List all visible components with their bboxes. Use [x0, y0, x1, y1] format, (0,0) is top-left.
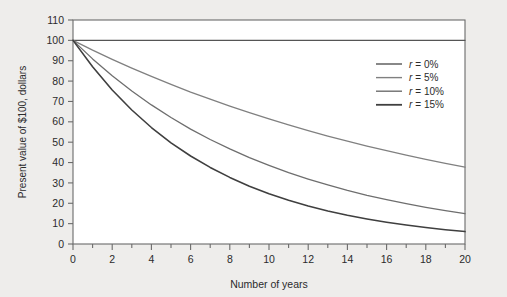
y-tick-label: 60 — [52, 115, 64, 127]
y-tick-label: 70 — [52, 95, 64, 107]
y-tick-label: 0 — [58, 238, 64, 250]
y-tick-label: 110 — [47, 14, 64, 26]
x-tick-label: 4 — [148, 253, 154, 265]
y-tick-label: 90 — [52, 54, 64, 66]
y-tick-label: 40 — [52, 156, 64, 168]
y-tick-label: 100 — [46, 34, 64, 46]
y-tick-label: 50 — [52, 136, 64, 148]
x-axis-title: Number of years — [230, 278, 308, 290]
x-tick-label: 20 — [459, 253, 471, 265]
x-tick-label: 16 — [381, 253, 393, 265]
x-tick-label: 6 — [188, 253, 194, 265]
x-tick-label: 18 — [420, 253, 432, 265]
x-tick-label: 0 — [70, 253, 76, 265]
y-axis-title: Present value of $100, dollars — [17, 66, 28, 198]
x-tick-label: 10 — [263, 253, 275, 265]
x-tick-label: 14 — [342, 253, 354, 265]
x-tick-label: 8 — [227, 253, 233, 265]
plot-area-background — [73, 20, 465, 244]
present-value-line-chart: 0102030405060708090100110 02468101214161… — [0, 0, 507, 297]
y-tick-label: 10 — [52, 217, 64, 229]
x-tick-label: 12 — [302, 253, 314, 265]
y-tick-label: 30 — [52, 177, 64, 189]
y-tick-label: 20 — [52, 197, 64, 209]
chart-figure: 0102030405060708090100110 02468101214161… — [0, 0, 507, 297]
y-tick-label: 80 — [52, 75, 64, 87]
x-tick-label: 2 — [109, 253, 115, 265]
